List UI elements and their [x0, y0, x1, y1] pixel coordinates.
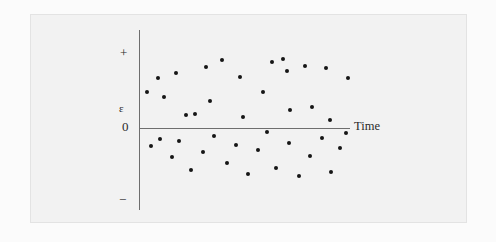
residual-scatter-figure: + ε 0 − Time [0, 0, 496, 242]
data-point [238, 75, 242, 79]
data-point [328, 118, 332, 122]
data-point [225, 161, 229, 165]
data-point [241, 115, 245, 119]
data-point [162, 95, 166, 99]
x-axis-line [139, 128, 350, 129]
y-axis-label-plus: + [120, 47, 127, 59]
data-point [320, 136, 324, 140]
data-point [212, 134, 216, 138]
data-point [297, 174, 301, 178]
y-axis-label-minus: − [119, 194, 126, 206]
data-point [274, 166, 278, 170]
data-point [303, 64, 307, 68]
data-point [193, 112, 197, 116]
data-point [270, 60, 274, 64]
data-point [265, 130, 269, 134]
data-point [281, 57, 285, 61]
data-point [285, 69, 289, 73]
data-point [204, 65, 208, 69]
data-point [208, 99, 212, 103]
data-point [156, 76, 160, 80]
data-point [344, 131, 348, 135]
data-point [158, 137, 162, 141]
data-point [220, 58, 224, 62]
data-point [174, 71, 178, 75]
data-point [324, 66, 328, 70]
data-point [287, 141, 291, 145]
plot-area: + ε 0 − Time [0, 0, 496, 242]
data-point [346, 76, 350, 80]
data-point [234, 143, 238, 147]
data-point [256, 148, 260, 152]
data-point [288, 108, 292, 112]
data-point [149, 144, 153, 148]
data-point [177, 139, 181, 143]
data-point [189, 168, 193, 172]
data-point [308, 154, 312, 158]
data-point [310, 105, 314, 109]
data-point [184, 113, 188, 117]
data-point [338, 146, 342, 150]
x-axis-label-time: Time [354, 120, 380, 132]
y-axis-line [139, 30, 140, 210]
data-point [201, 150, 205, 154]
data-point [246, 172, 250, 176]
data-point [261, 90, 265, 94]
data-point [170, 155, 174, 159]
y-axis-label-epsilon: ε [119, 102, 124, 114]
data-point [145, 90, 149, 94]
data-point [329, 170, 333, 174]
y-axis-label-zero: 0 [122, 121, 129, 133]
